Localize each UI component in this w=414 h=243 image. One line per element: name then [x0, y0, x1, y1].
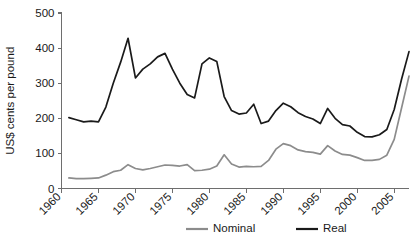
- x-tick-label: 1990: [258, 190, 285, 217]
- legend-label-real: Real: [323, 222, 347, 234]
- x-tick-label: 2000: [332, 190, 359, 217]
- plot-area: 0100200300400500196019651970197519801985…: [4, 7, 409, 234]
- y-axis-title: US$ cents per pound: [4, 47, 16, 155]
- x-tick-label: 1960: [36, 190, 63, 217]
- x-tick-label: 1980: [184, 190, 211, 217]
- x-tick-label: 1985: [221, 190, 248, 217]
- x-tick-label: 1970: [110, 190, 137, 217]
- x-tick-label: 2005: [369, 190, 396, 217]
- line-chart: 0100200300400500196019651970197519801985…: [0, 0, 414, 243]
- series-line-real: [69, 38, 409, 137]
- y-tick-label: 400: [35, 42, 54, 54]
- legend-label-nominal: Nominal: [213, 222, 255, 234]
- x-tick-label: 1965: [73, 190, 100, 217]
- chart-container: 0100200300400500196019651970197519801985…: [0, 0, 414, 243]
- y-tick-label: 100: [35, 147, 54, 159]
- y-tick-label: 500: [35, 7, 54, 19]
- series-line-nominal: [69, 76, 409, 178]
- y-tick-label: 200: [35, 112, 54, 124]
- x-tick-label: 1995: [295, 190, 322, 217]
- x-tick-label: 1975: [147, 190, 174, 217]
- y-tick-label: 300: [35, 77, 54, 89]
